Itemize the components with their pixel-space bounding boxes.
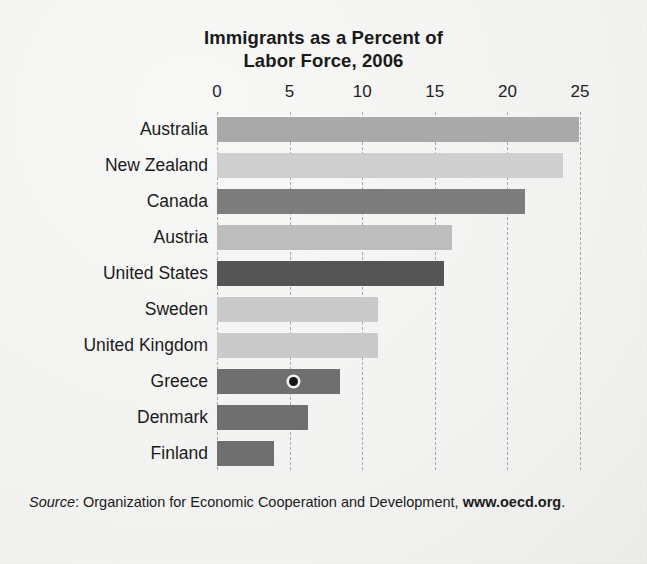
category-label-austria: Austria (154, 225, 208, 250)
source-period: . (561, 494, 565, 510)
chart-title-line-2: Labor Force, 2006 (0, 49, 647, 72)
source-text: Organization for Economic Cooperation an… (83, 494, 459, 510)
bar-australia (217, 117, 579, 142)
chart-title: Immigrants as a Percent of Labor Force, … (0, 26, 647, 72)
x-axis-tick-25: 25 (571, 82, 590, 102)
source-label: Source (29, 494, 75, 510)
bar-row: Greece (217, 364, 580, 400)
x-axis-tick-labels: 0510152025 (0, 82, 647, 104)
x-axis-tick-20: 20 (498, 82, 517, 102)
category-label-new-zealand: New Zealand (105, 153, 208, 178)
source-url: www.oecd.org (463, 494, 562, 510)
bar-row: Sweden (217, 292, 580, 328)
bar-austria (217, 225, 452, 250)
bar-rows: AustraliaNew ZealandCanadaAustriaUnited … (217, 112, 580, 470)
bar-new-zealand (217, 153, 563, 178)
source-note: Source: Organization for Economic Cooper… (29, 492, 609, 512)
chart-title-line-1: Immigrants as a Percent of (204, 27, 443, 48)
bar-denmark (217, 405, 308, 430)
gridline-25 (580, 112, 581, 470)
plot-area: AustraliaNew ZealandCanadaAustriaUnited … (217, 112, 580, 470)
source-separator: : (75, 494, 83, 510)
bar-finland (217, 441, 274, 466)
bar-row: Australia (217, 112, 580, 148)
bar-row: New Zealand (217, 148, 580, 184)
category-label-canada: Canada (147, 189, 208, 214)
x-axis-tick-10: 10 (353, 82, 372, 102)
category-label-greece: Greece (151, 369, 208, 394)
bar-canada (217, 189, 525, 214)
bar-sweden (217, 297, 378, 322)
bar-united-states (217, 261, 444, 286)
bar-greece (217, 369, 340, 394)
category-label-sweden: Sweden (145, 297, 208, 322)
x-axis-tick-15: 15 (425, 82, 444, 102)
category-label-denmark: Denmark (137, 405, 208, 430)
chart-figure: Immigrants as a Percent of Labor Force, … (0, 0, 647, 564)
bar-row: Canada (217, 184, 580, 220)
category-label-australia: Australia (140, 117, 208, 142)
x-axis-tick-5: 5 (285, 82, 294, 102)
bar-row: Finland (217, 436, 580, 472)
x-axis-tick-0: 0 (212, 82, 221, 102)
category-label-united-states: United States (103, 261, 208, 286)
bar-row: Austria (217, 220, 580, 256)
bar-united-kingdom (217, 333, 378, 358)
category-label-finland: Finland (151, 441, 208, 466)
bar-row: United Kingdom (217, 328, 580, 364)
category-label-united-kingdom: United Kingdom (83, 333, 208, 358)
bar-row: United States (217, 256, 580, 292)
bar-row: Denmark (217, 400, 580, 436)
